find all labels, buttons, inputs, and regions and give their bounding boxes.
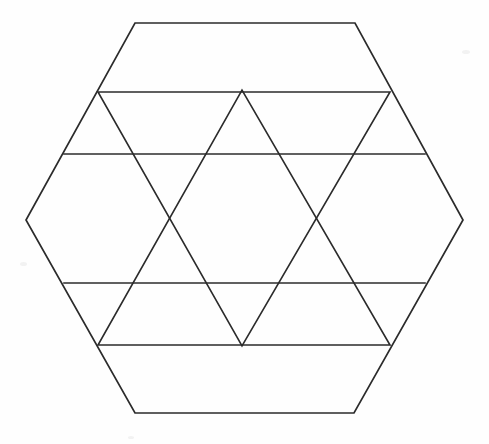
outer-hexagon-outline [26,23,463,413]
upward-triangle-outline [98,90,390,345]
hexagram-figure [0,0,489,444]
downward-triangle-outline [98,92,390,346]
geometry-figure-canvas [0,0,489,444]
